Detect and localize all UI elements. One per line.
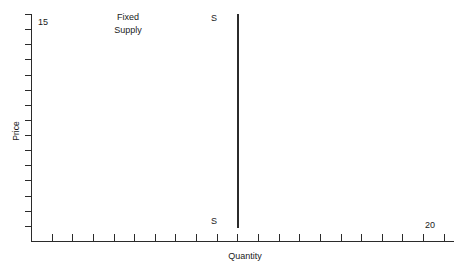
y-axis-tick [25,90,31,91]
x-axis-tick [258,234,259,241]
y-axis-title: Price [11,111,21,151]
y-axis-tick [25,59,31,60]
y-axis-tick [25,180,31,181]
x-axis-tick [93,234,94,241]
x-axis-tick [320,234,321,241]
x-axis-tick [423,234,424,241]
y-axis-tick [25,165,31,166]
supply-curve-chart: 15 20 Price Quantity S S Fixed Supply [0,0,463,270]
x-axis-tick [114,234,115,241]
x-axis-tick [382,234,383,241]
x-axis-tick [217,234,218,241]
x-axis-tick [155,234,156,241]
y-axis-tick [25,120,31,121]
y-axis-tick [25,211,31,212]
y-axis-tick [25,150,31,151]
x-axis-title: Quantity [205,251,285,262]
x-axis-tick [134,234,135,241]
y-axis-tick [25,226,31,227]
x-axis-tick [237,234,238,241]
x-axis-tick [52,234,53,241]
y-axis-tick [25,29,31,30]
x-axis-tick [299,234,300,241]
x-axis-tick [444,234,445,241]
x-axis-tick [72,234,73,241]
supply-curve-label-bottom: S [211,216,217,226]
x-axis-tick [341,234,342,241]
y-axis-tick [25,196,31,197]
x-axis-tick [279,234,280,241]
y-axis-tick [25,105,31,106]
y-axis-tick [25,44,31,45]
x-axis-tick [402,234,403,241]
y-axis-line [31,14,32,242]
x-axis-max-tick-label: 20 [425,220,435,230]
supply-curve-label-top: S [211,13,217,23]
x-axis-tick [196,234,197,241]
x-axis-tick [175,234,176,241]
y-axis-tick [25,135,31,136]
fixed-supply-annotation: Fixed Supply [96,11,160,37]
y-axis-max-tick-label: 15 [38,17,48,27]
y-axis-tick [25,14,31,15]
supply-curve-line [237,14,239,228]
x-axis-tick [361,234,362,241]
x-axis-line [31,241,454,242]
y-axis-tick [25,75,31,76]
